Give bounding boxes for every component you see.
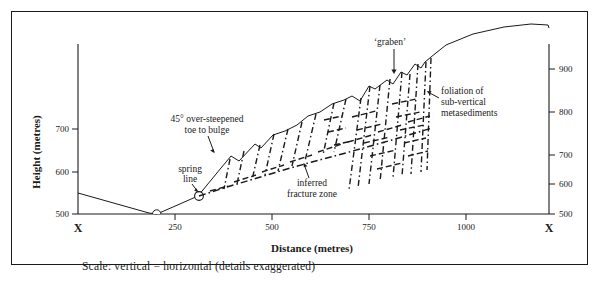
bedding-dash-18 xyxy=(408,151,428,156)
y-tick-right-label-700: 700 xyxy=(559,150,573,160)
fracture-zone-label-line2: fracture zone xyxy=(287,189,337,199)
spring-line-label-line2: line xyxy=(183,174,197,184)
x-section-marker-right: X xyxy=(545,221,554,235)
bedding-dash-13 xyxy=(377,163,402,169)
x-axis-title: Distance (metres) xyxy=(271,242,353,255)
x-axis-ticks xyxy=(175,214,466,220)
bedding-dash-4 xyxy=(290,155,312,162)
annotation-inferred-fracture-zone: inferred fracture zone xyxy=(287,163,337,199)
annotation-graben: ‘graben’ xyxy=(374,37,406,74)
bedding-dash-14 xyxy=(392,99,416,104)
bedding-dash-17 xyxy=(404,138,426,143)
y-tick-right-label-500: 500 xyxy=(559,209,573,219)
oversteepened-label-line1: 45° over-steepened xyxy=(171,114,244,124)
bedding-dash-9 xyxy=(352,111,376,117)
oversteepened-label-line2: toe to bulge xyxy=(185,125,230,135)
foliation-label-line3: metasediments xyxy=(441,108,498,118)
x-tick-label-500: 500 xyxy=(265,222,279,232)
y-tick-right-label-900: 900 xyxy=(559,64,573,74)
foliation-line-15 xyxy=(402,74,410,176)
oversteepened-arrowhead xyxy=(210,149,214,153)
figure-frame: 700 600 500 900 800 700 600 500 250 500 … xyxy=(11,11,588,265)
y-axis-title: Height (metres) xyxy=(30,115,43,189)
bedding-dash-7 xyxy=(378,125,402,132)
y-axis-left-ticks xyxy=(72,129,78,214)
annotation-foliation: foliation of sub-vertical metasediments xyxy=(427,86,498,118)
bedding-dash-16 xyxy=(400,125,424,130)
y-tick-right-label-800: 800 xyxy=(559,107,573,117)
bedding-dash-19 xyxy=(324,116,342,120)
y-tick-label-700: 700 xyxy=(56,124,70,134)
bedding-dash-8 xyxy=(408,116,430,122)
annotation-spring-line: spring line xyxy=(178,164,202,193)
x-tick-label-250: 250 xyxy=(168,222,182,232)
x-tick-label-750: 750 xyxy=(362,222,376,232)
foliation-label-line2: sub-vertical xyxy=(441,97,486,107)
bedding-dash-3 xyxy=(262,165,284,172)
fracture-zone-label-line1: inferred xyxy=(297,178,327,188)
y-tick-right-label-600: 600 xyxy=(559,179,573,189)
foliation-line-7 xyxy=(305,114,316,161)
x-tick-label-1000: 1000 xyxy=(457,222,476,232)
cross-section-diagram: 700 600 500 900 800 700 600 500 250 500 … xyxy=(12,12,589,266)
x-section-marker-left: X xyxy=(74,221,83,235)
spring-line-label-line1: spring xyxy=(178,164,202,174)
y-tick-label-500: 500 xyxy=(56,209,70,219)
foliation-line-18 xyxy=(427,58,431,170)
y-tick-label-600: 600 xyxy=(56,167,70,177)
foliation-label-line1: foliation of xyxy=(441,86,484,96)
graben-label: ‘graben’ xyxy=(374,37,406,47)
annotation-oversteepened-toe: 45° over-steepened toe to bulge xyxy=(171,114,244,153)
bedding-dash-15 xyxy=(396,112,420,117)
foliation-line-8 xyxy=(323,103,334,155)
foliation-line-17 xyxy=(421,62,426,172)
bedding-dash-5 xyxy=(318,144,342,152)
stream-marker xyxy=(153,210,161,214)
foliation-line-6 xyxy=(292,122,302,166)
y-axis-right-ticks xyxy=(549,69,555,214)
graben-arrowhead xyxy=(391,69,396,74)
foliation-lines-group xyxy=(224,58,431,190)
figure-caption: Scale: vertical = horizontal (details ex… xyxy=(82,260,315,272)
bedding-dash-10 xyxy=(357,124,382,130)
bedding-dash-20 xyxy=(328,128,346,132)
foliation-line-3 xyxy=(252,145,260,180)
